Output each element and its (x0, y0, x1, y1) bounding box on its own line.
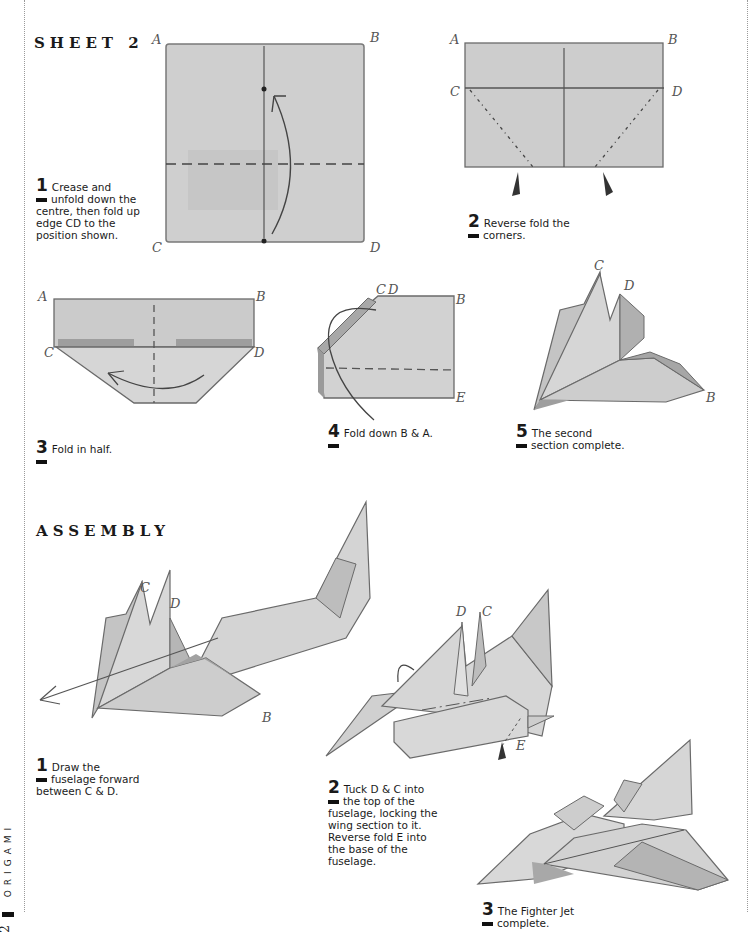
corner-label-c: C (140, 580, 150, 595)
corner-label-a: A (151, 32, 161, 47)
corner-label-d: D (623, 278, 635, 293)
page-number: 2 (0, 925, 12, 933)
step-sheet2-5-caption: 5The second section complete. (516, 424, 625, 451)
step-number: 5 (516, 424, 528, 438)
corner-label-d: D (671, 84, 683, 99)
step-bar (328, 800, 339, 804)
right-margin-rule (747, 0, 748, 912)
figure-sheet2-step5: C D B (520, 260, 720, 420)
caption-line: fuselage, locking the (328, 807, 437, 819)
corner-label-c: C (594, 258, 604, 273)
section-title-sheet-2: SHEET 2 (34, 34, 144, 52)
caption-line: Crease and (52, 181, 111, 193)
step-sheet2-2-caption: 2Reverse fold the corners. (468, 214, 570, 241)
figure-assembly-step3 (474, 734, 734, 894)
corner-label-c: C (152, 240, 162, 255)
corner-label-b: B (705, 390, 716, 405)
caption-line: Tuck D & C into (344, 783, 424, 795)
step-number: 1 (36, 178, 48, 192)
corner-label-a: A (449, 32, 459, 47)
corner-label-e: E (455, 390, 466, 405)
figure-sheet2-step3: A B C D (36, 285, 276, 415)
caption-line: Fold in half. (52, 443, 112, 455)
corner-label-d: D (369, 240, 381, 255)
step-assembly-3-caption: 3The Fighter Jet complete. (482, 902, 574, 929)
caption-line: Fold down B & A. (344, 427, 433, 439)
step-bar (36, 198, 47, 202)
step-bar (328, 444, 339, 448)
step-sheet2-4-caption: 4Fold down B & A. (328, 424, 433, 451)
caption-line: Reverse fold E into (328, 831, 437, 843)
fold-in-half-diagram: A B C D (36, 285, 276, 415)
caption-line: wing section to it. (328, 819, 437, 831)
corner-label-b: B (667, 32, 678, 47)
corner-label-d: D (455, 604, 467, 619)
running-title: ORIGAMI (2, 820, 14, 900)
caption-line: The second (532, 427, 592, 439)
figure-sheet2-step2: A B C D (448, 30, 698, 210)
figure-sheet2-step1: A B C D (148, 30, 388, 260)
step-bar (516, 444, 527, 448)
caption-line: complete. (497, 917, 549, 929)
caption-line: centre, then fold up (36, 205, 140, 217)
book-title: ORIGAMI (3, 823, 13, 898)
reverse-fold-diagram: A B C D (448, 30, 698, 210)
step-bar (36, 460, 47, 464)
corner-label-b: B (455, 292, 466, 307)
corner-label-b: B (255, 289, 266, 304)
caption-line: Reverse fold the (484, 217, 570, 229)
step-assembly-2-caption: 2Tuck D & C into the top of the fuselage… (328, 780, 437, 867)
step-bar (482, 922, 493, 926)
step-number: 3 (482, 902, 494, 916)
step-number: 3 (36, 440, 48, 454)
square-sheet-diagram: A B C D (148, 30, 388, 260)
step-number: 4 (328, 424, 340, 438)
caption-line: The Fighter Jet (498, 905, 574, 917)
step-number: 1 (36, 758, 48, 772)
corner-label-c: C (44, 345, 54, 360)
caption-line: the top of the (343, 795, 415, 807)
corner-label-c: C (482, 604, 492, 619)
caption-line: section complete. (531, 439, 625, 451)
fighter-jet-complete-diagram (474, 734, 734, 894)
caption-line: fuselage. (328, 855, 437, 867)
caption-line: fuselage forward (51, 773, 139, 785)
corner-label-c: C (376, 282, 386, 297)
step-number: 2 (328, 780, 340, 794)
step-sheet2-1-caption: 1Crease and unfold down the centre, then… (36, 178, 140, 241)
left-margin-rule (24, 0, 25, 912)
caption-line: edge CD to the (36, 217, 140, 229)
caption-line: the base of the (328, 843, 437, 855)
corner-label-a: A (37, 289, 47, 304)
corner-label-d: D (169, 596, 181, 611)
step-bar (468, 234, 479, 238)
corner-label-d: D (253, 345, 265, 360)
second-section-diagram: C D B (520, 260, 720, 420)
folio-bar (2, 912, 14, 917)
caption-line: Draw the (52, 761, 100, 773)
corner-label-c: C (450, 84, 460, 99)
corner-label-b: B (369, 30, 380, 45)
step-sheet2-3-caption: 3Fold in half. (36, 440, 112, 467)
caption-line: corners. (483, 229, 526, 241)
caption-line: position shown. (36, 229, 140, 241)
step-assembly-1-caption: 1Draw the fuselage forward between C & D… (36, 758, 139, 797)
caption-line: unfold down the (51, 193, 136, 205)
figure-sheet2-step4: C D B E (310, 280, 480, 430)
step-number: 2 (468, 214, 480, 228)
corner-label-b: B (261, 710, 272, 725)
step-bar (36, 778, 47, 782)
caption-line: between C & D. (36, 785, 139, 797)
fold-down-diagram: C D B E (310, 280, 480, 430)
corner-label-d: D (387, 282, 399, 297)
